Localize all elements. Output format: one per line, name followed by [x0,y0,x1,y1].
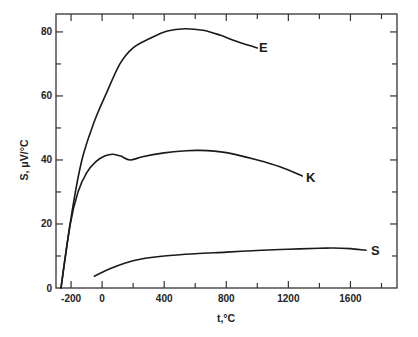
curve-k [61,150,302,288]
x-tick-label: -200 [61,293,81,304]
axis-ticks [56,14,397,288]
y-tick-label: 40 [41,154,53,165]
x-tick-label: 400 [156,293,173,304]
y-axis-label: S, μV/°C [18,139,30,180]
series-label-s: S [371,243,380,258]
curve-s [94,248,366,276]
curves [61,29,366,288]
x-tick-label: 800 [218,293,235,304]
plot-frame [56,14,397,288]
series-label-k: K [306,170,316,185]
x-axis-label: t,°C [217,312,236,324]
tick-labels: -200040080012001600020406080 [41,26,362,304]
seebeck-chart: -200040080012001600020406080 E K S t,°C … [0,0,418,337]
x-tick-label: 1600 [339,293,362,304]
y-tick-label: 0 [46,283,52,294]
x-tick-label: 0 [99,293,105,304]
y-tick-label: 80 [41,26,53,37]
curve-e [61,29,257,288]
series-label-e: E [259,40,268,55]
y-tick-label: 20 [41,218,53,229]
x-tick-label: 1200 [277,293,300,304]
y-tick-label: 60 [41,90,53,101]
